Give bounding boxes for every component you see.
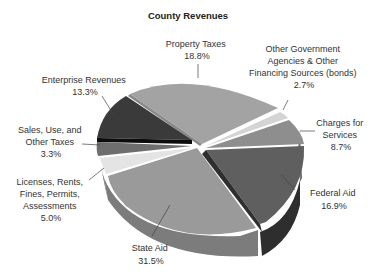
label-state-aid: State Aid 31.5% xyxy=(132,243,171,266)
label-charges-for-services: Charges for Services 8.7% xyxy=(316,118,366,152)
label-federal-aid: Federal Aid 16.9% xyxy=(310,188,358,211)
chart-title: County Revenues xyxy=(148,10,228,21)
label-sales-taxes: Sales, Use, and Other Taxes 3.3% xyxy=(18,125,84,159)
label-licenses: Licenses, Rents, Fines, Permits, Assessm… xyxy=(16,177,85,223)
label-other-government: Other Government Agencies & Other Financ… xyxy=(249,44,359,90)
label-property-taxes: Property Taxes 18.8% xyxy=(166,39,228,61)
label-enterprise-revenues: Enterprise Revenues 13.3% xyxy=(42,75,129,97)
pie-chart: County Revenues xyxy=(0,0,376,279)
